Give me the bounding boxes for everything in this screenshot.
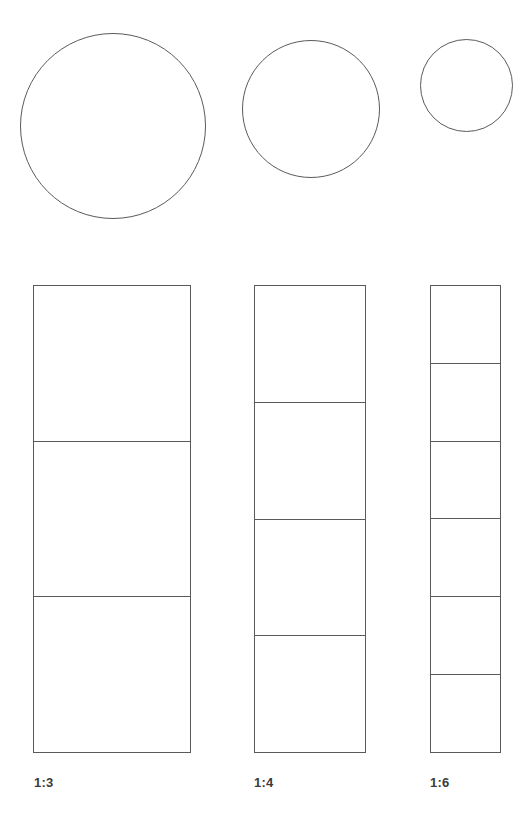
large-circle <box>20 33 206 219</box>
diagram-canvas: 1:3 1:4 1:6 <box>0 0 520 822</box>
bar-segment <box>34 442 190 598</box>
bar-segment <box>34 597 190 752</box>
bar-segment <box>34 286 190 442</box>
bar-segment <box>255 403 365 520</box>
bar-segment <box>431 675 500 752</box>
bar-segment <box>255 636 365 752</box>
bar-segment <box>431 286 500 364</box>
circle-row <box>0 0 520 260</box>
bar-1-4 <box>254 285 366 753</box>
bar-1-3 <box>33 285 191 753</box>
bar-segment <box>255 286 365 403</box>
bar-segment <box>431 597 500 675</box>
ratio-label-1-4: 1:4 <box>254 776 273 789</box>
bar-segment <box>431 519 500 597</box>
medium-circle <box>242 40 380 178</box>
bar-segment <box>431 442 500 520</box>
ratio-label-1-3: 1:3 <box>34 776 53 789</box>
bar-segment <box>255 520 365 637</box>
ratio-label-1-6: 1:6 <box>430 776 449 789</box>
small-circle <box>420 39 513 132</box>
bar-segment <box>431 364 500 442</box>
bar-1-6 <box>430 285 501 753</box>
